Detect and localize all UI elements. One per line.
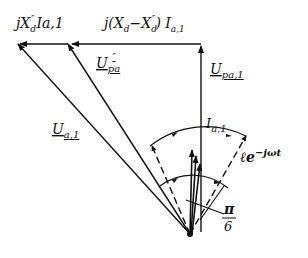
label-upa1: Upa,1 [210, 61, 244, 80]
angle-line-2 [200, 186, 224, 220]
label-angle-denominator: 6 [224, 219, 232, 234]
label-upa-subtransient: Upa″ [96, 52, 120, 74]
phasor-diagram: jXd″Ia,1 j(Xd−Xd″) Ia,1 Upa,1 Upa″ Ua,1 … [0, 0, 308, 258]
label-jxd-ia1: jXd″Ia,1 [13, 14, 64, 34]
origin-point [187, 231, 193, 237]
label-ia1: Ia,1 [205, 116, 227, 134]
dashed-phasor-left [152, 146, 190, 234]
label-rotation: ℓe−jωt [240, 147, 281, 165]
ua1-phasor [18, 44, 190, 234]
label-diff-drop: j(Xd−Xd″) Ia,1 [101, 14, 185, 34]
label-angle-numerator: π [223, 201, 235, 217]
upa-subtransient-phasor [68, 44, 190, 234]
label-ua1: Ua,1 [52, 121, 79, 140]
rotation-arc-outer [150, 127, 246, 146]
